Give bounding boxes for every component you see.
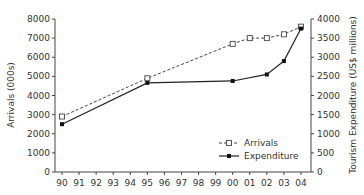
left-tick-label: 0 (44, 167, 50, 177)
x-tick-label: 01 (244, 178, 255, 188)
legend: Arrivals Expenditure (219, 138, 299, 161)
right-tick-label: 2000 (317, 91, 340, 101)
arrivals-point (145, 76, 150, 81)
left-tick-label: 5000 (27, 71, 50, 81)
left-tick-label: 6000 (27, 52, 50, 62)
x-axis: 909192939495969798990001020304 (55, 172, 311, 188)
right-tick-label: 3000 (317, 52, 340, 62)
arrivals-point (230, 41, 235, 46)
x-tick-label: 00 (227, 178, 239, 188)
right-y-axis: 05001000150020002500300035004000 (311, 14, 340, 177)
x-tick-label: 90 (56, 178, 68, 188)
legend-arrivals-label: Arrivals (244, 138, 278, 148)
expenditure-point (145, 81, 149, 85)
right-tick-label: 3500 (317, 33, 340, 43)
left-tick-label: 7000 (27, 33, 50, 43)
arrivals-point (264, 36, 269, 41)
x-tick-label: 91 (73, 178, 84, 188)
x-tick-label: 02 (261, 178, 272, 188)
legend-expenditure-label: Expenditure (244, 151, 299, 161)
dual-axis-line-chart: 010002000300040005000600070008000 050010… (0, 0, 364, 195)
x-tick-label: 93 (107, 178, 118, 188)
left-axis-label: Arrivals (000s) (6, 62, 16, 128)
x-tick-label: 98 (193, 178, 205, 188)
right-axis-label: Tourism Expenditure (US$ millions) (348, 16, 358, 175)
left-tick-label: 1000 (27, 148, 50, 158)
x-tick-label: 97 (176, 178, 187, 188)
arrivals-point (247, 36, 252, 41)
left-y-axis: 010002000300040005000600070008000 (27, 14, 55, 177)
expenditure-point (299, 27, 303, 31)
arrivals-point (281, 32, 286, 37)
x-tick-label: 95 (142, 178, 153, 188)
expenditure-point (265, 72, 269, 76)
series-layer (60, 24, 304, 126)
x-tick-label: 94 (125, 178, 137, 188)
x-tick-label: 04 (295, 178, 307, 188)
arrivals-marker-icon (227, 141, 232, 146)
x-tick-label: 99 (210, 178, 222, 188)
expenditure-point (282, 59, 286, 63)
right-tick-label: 500 (317, 148, 334, 158)
left-tick-label: 4000 (27, 91, 50, 101)
right-tick-label: 0 (317, 167, 323, 177)
x-tick-label: 03 (278, 178, 289, 188)
expenditure-marker-icon (227, 154, 231, 158)
left-tick-label: 2000 (27, 129, 50, 139)
left-tick-label: 8000 (27, 14, 50, 24)
x-tick-label: 92 (90, 178, 101, 188)
arrivals-point (60, 114, 65, 119)
expenditure-point (231, 79, 235, 83)
expenditure-point (60, 122, 64, 126)
right-tick-label: 1500 (317, 110, 340, 120)
right-tick-label: 1000 (317, 129, 340, 139)
left-tick-label: 3000 (27, 110, 50, 120)
right-tick-label: 2500 (317, 71, 340, 81)
right-tick-label: 4000 (317, 14, 340, 24)
x-tick-label: 96 (159, 178, 171, 188)
